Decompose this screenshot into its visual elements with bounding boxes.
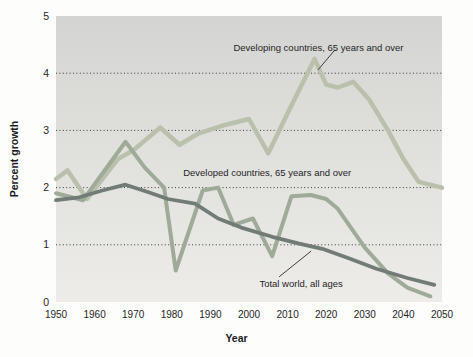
x-tick-label: 2010 bbox=[276, 309, 299, 320]
x-tick-label: 2040 bbox=[392, 309, 415, 320]
x-tick-label: 2020 bbox=[315, 309, 338, 320]
series-annotation-2: Total world, all ages bbox=[259, 278, 342, 289]
y-tick-label: 3 bbox=[43, 124, 49, 136]
y-axis-title: Percent growth bbox=[8, 99, 20, 219]
y-tick-label: 5 bbox=[43, 10, 49, 22]
y-tick-label: 1 bbox=[43, 238, 49, 250]
series-annotation-1: Developed countries, 65 years and over bbox=[183, 167, 351, 178]
percent-growth-line-chart: 0123451950196019701980199020002010202020… bbox=[0, 0, 473, 357]
y-tick-label: 2 bbox=[43, 181, 49, 193]
x-tick-label: 1950 bbox=[45, 309, 68, 320]
x-tick-label: 2050 bbox=[431, 309, 454, 320]
chart-canvas: 0123451950196019701980199020002010202020… bbox=[0, 0, 473, 357]
y-tick-label: 4 bbox=[43, 67, 49, 79]
x-tick-label: 1970 bbox=[122, 309, 145, 320]
x-tick-label: 2030 bbox=[354, 309, 377, 320]
x-tick-label: 2000 bbox=[238, 309, 261, 320]
x-axis-title: Year bbox=[0, 332, 473, 344]
y-tick-label: 0 bbox=[43, 296, 49, 308]
series-annotation-0: Developing countries, 65 years and over bbox=[233, 41, 403, 52]
x-tick-label: 1960 bbox=[83, 309, 106, 320]
x-tick-label: 1990 bbox=[199, 309, 222, 320]
x-tick-label: 1980 bbox=[161, 309, 184, 320]
